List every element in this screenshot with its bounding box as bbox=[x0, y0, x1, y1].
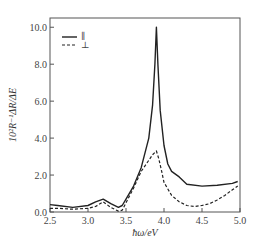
x-tick-label: 4.5 bbox=[196, 215, 209, 226]
y-tick-label: 10.0 bbox=[30, 22, 48, 33]
x-tick-label: 3.5 bbox=[120, 215, 133, 226]
y-tick-label: 2.0 bbox=[35, 170, 48, 181]
x-tick-label: 5.0 bbox=[234, 215, 247, 226]
plot-frame bbox=[50, 18, 240, 212]
chart: 2.53.03.54.04.55.0 0.02.04.06.08.010.0 ∥… bbox=[0, 0, 260, 252]
y-tick-label: 4.0 bbox=[35, 133, 48, 144]
y-tick-label: 8.0 bbox=[35, 59, 48, 70]
y-tick-label: 0.0 bbox=[35, 207, 48, 218]
x-tick-label: 4.0 bbox=[158, 215, 171, 226]
plot-lines bbox=[50, 27, 238, 211]
x-axis-title: ħω/eV bbox=[132, 227, 159, 238]
y-tick-label: 6.0 bbox=[35, 96, 48, 107]
x-tick-label: 3.0 bbox=[82, 215, 95, 226]
parallel-series-line bbox=[50, 27, 238, 207]
y-axis-title: 10²R⁻¹ΔR/ΔE bbox=[7, 88, 18, 142]
legend-perpendicular-label: ⊥ bbox=[81, 40, 89, 50]
legend: ∥ ⊥ bbox=[62, 31, 89, 50]
x-axis: 2.53.03.54.04.55.0 bbox=[44, 208, 247, 226]
